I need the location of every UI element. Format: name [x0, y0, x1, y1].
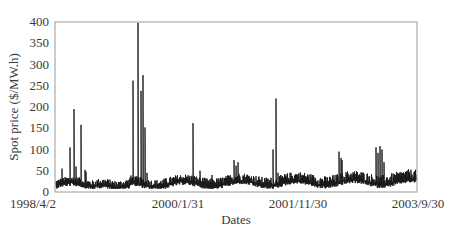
- y-tick-150: 150: [19, 121, 49, 134]
- y-tick-350: 350: [19, 36, 49, 49]
- x-tick-2003-9-30: 2003/9/30: [392, 197, 445, 210]
- x-tick-1998-4-2: 1998/4/2: [10, 197, 56, 210]
- x-tick-2000-1-31: 2000/1/31: [152, 197, 205, 210]
- x-axis-label: Dates: [221, 212, 251, 228]
- y-tick-300: 300: [19, 58, 49, 71]
- line-chart: [0, 0, 455, 236]
- spot-price-series: [56, 23, 416, 189]
- y-tick-200: 200: [19, 100, 49, 113]
- y-tick-250: 250: [19, 79, 49, 92]
- x-tick-2001-11-30: 2001/11/30: [269, 197, 328, 210]
- y-tick-400: 400: [19, 15, 49, 28]
- y-tick-100: 100: [19, 143, 49, 156]
- y-tick-50: 50: [19, 164, 49, 177]
- y-axis-label: Spot price ($/MW.h): [6, 53, 22, 160]
